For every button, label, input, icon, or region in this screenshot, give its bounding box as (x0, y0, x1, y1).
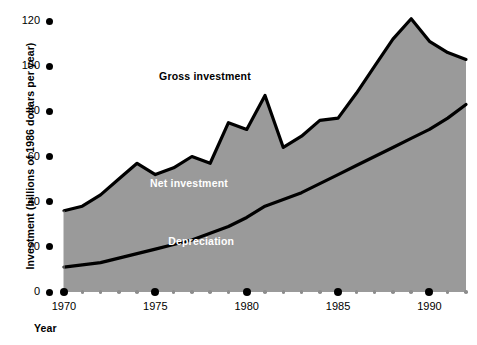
x-tick-dot-minor (409, 290, 413, 294)
x-tick-dot-major (243, 288, 251, 296)
series-label-depreciation: Depreciation (168, 235, 234, 247)
x-tick-label: 1990 (407, 301, 451, 312)
y-tick-label: 20 (0, 241, 40, 252)
x-tick-label: 1980 (225, 301, 269, 312)
x-tick-dot-minor (464, 290, 468, 294)
y-tick-label: 60 (0, 151, 40, 162)
x-axis-title: Year (34, 322, 57, 334)
x-tick-dot-minor (99, 290, 103, 294)
chart-plot-area (0, 0, 477, 345)
x-tick-dot-minor (263, 290, 267, 294)
x-tick-dot-minor (300, 290, 304, 294)
y-tick-dot (46, 289, 53, 296)
x-tick-label: 1975 (133, 301, 177, 312)
y-tick-dot (46, 18, 53, 25)
y-tick-dot (46, 63, 53, 70)
x-tick-dot-minor (117, 290, 121, 294)
series-label-gross-investment: Gross investment (159, 70, 251, 82)
x-tick-label: 1985 (316, 301, 360, 312)
x-tick-label: 1970 (42, 301, 86, 312)
gross-investment-area (64, 19, 466, 292)
y-tick-label: 80 (0, 105, 40, 116)
x-tick-dot-minor (355, 290, 359, 294)
y-tick-label: 40 (0, 196, 40, 207)
x-tick-dot-major (60, 288, 68, 296)
x-tick-dot-minor (190, 290, 194, 294)
x-tick-dot-minor (282, 290, 286, 294)
x-tick-dot-minor (391, 290, 395, 294)
x-tick-dot-minor (135, 290, 139, 294)
x-tick-dot-minor (208, 290, 212, 294)
x-tick-dot-minor (318, 290, 322, 294)
investment-chart-figure: Investment (billions of 1986 dollars per… (0, 0, 477, 345)
y-tick-dot (46, 108, 53, 115)
y-tick-label: 0 (0, 286, 40, 297)
x-tick-dot-minor (81, 290, 85, 294)
x-tick-dot-minor (227, 290, 231, 294)
y-tick-label: 100 (0, 60, 40, 71)
y-tick-label: 120 (0, 15, 40, 26)
series-label-net-investment: Net investment (150, 177, 228, 189)
y-tick-dot (46, 153, 53, 160)
